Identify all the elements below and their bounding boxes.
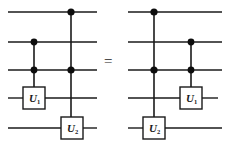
- left-gate-u1-subscript: 1: [37, 98, 40, 105]
- right-u2-control-dot-wire1: [150, 8, 157, 15]
- left-gate-u2-subscript: 2: [75, 128, 78, 135]
- right-gate-u2[interactable]: U 2: [143, 117, 165, 139]
- equals-sign: =: [104, 53, 112, 69]
- left-u1-control-dot-wire3: [31, 67, 38, 74]
- left-wires: [8, 12, 97, 128]
- right-wires: [128, 12, 222, 128]
- left-u2-control-dot-wire3: [67, 66, 74, 73]
- quantum-circuit-identity-figure: U 1 U 2 =: [0, 0, 226, 145]
- right-circuit: U 2 U 1: [128, 8, 222, 139]
- left-gate-u1[interactable]: U 1: [23, 87, 45, 109]
- right-u1-control-dot-wire3: [188, 67, 195, 74]
- left-gate-u2[interactable]: U 2: [61, 117, 83, 139]
- circuit-canvas: U 1 U 2 =: [0, 0, 226, 145]
- left-circuit: U 1 U 2: [8, 8, 97, 139]
- right-gate-u1[interactable]: U 1: [180, 87, 202, 109]
- right-gate-u1-subscript: 1: [194, 98, 197, 105]
- right-u2-control-dot-wire3: [150, 66, 157, 73]
- left-u1-control-dot-wire2: [31, 39, 38, 46]
- left-u2-control-dot-wire1: [67, 8, 74, 15]
- right-gate-u2-subscript: 2: [157, 128, 160, 135]
- right-u1-control-dot-wire2: [188, 39, 195, 46]
